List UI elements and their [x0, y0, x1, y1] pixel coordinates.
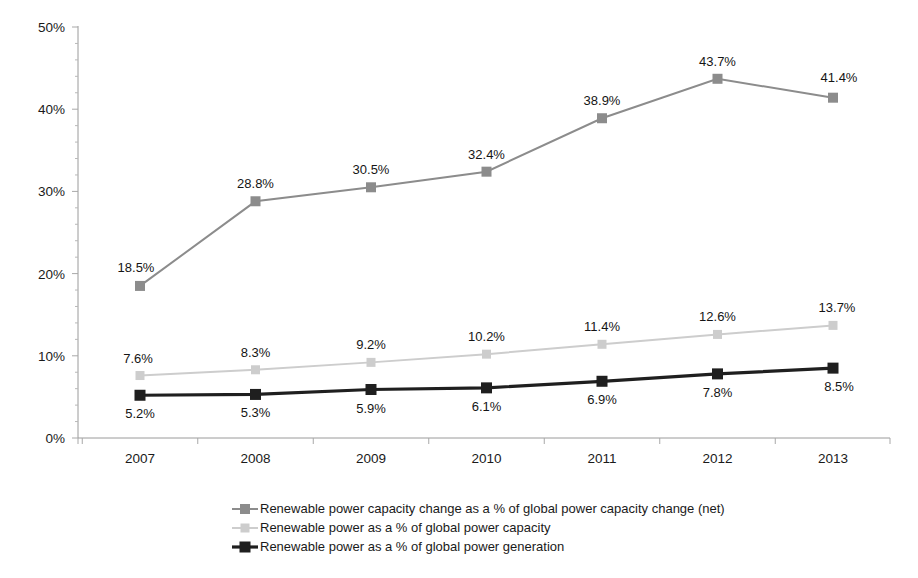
- data-label: 8.5%: [824, 379, 854, 394]
- data-label: 7.8%: [703, 385, 733, 400]
- data-point-marker: [829, 321, 838, 330]
- y-axis-tick-label: 50%: [38, 20, 65, 35]
- x-axis-tick-label: 2013: [818, 451, 848, 466]
- data-point-marker: [251, 365, 260, 374]
- data-point-marker: [597, 113, 607, 123]
- data-point-marker: [251, 196, 261, 206]
- data-label: 6.1%: [472, 399, 502, 414]
- legend-item-2[interactable]: Renewable power as a % of global power c…: [232, 520, 551, 535]
- data-point-marker: [598, 340, 607, 349]
- data-label: 5.2%: [125, 406, 155, 421]
- data-point-marker: [828, 363, 839, 374]
- data-point-marker: [828, 93, 838, 103]
- legend-label: Renewable power as a % of global power g…: [260, 539, 564, 554]
- data-point-marker: [482, 167, 492, 177]
- y-axis-tick-label: 10%: [38, 349, 65, 364]
- legend-item-3[interactable]: Renewable power as a % of global power g…: [232, 539, 564, 554]
- x-axis-tick-label: 2012: [702, 451, 732, 466]
- y-axis-tick-label: 40%: [38, 102, 65, 117]
- x-axis-tick-label: 2010: [471, 451, 501, 466]
- data-label: 10.2%: [468, 329, 505, 344]
- data-point-marker: [597, 376, 608, 387]
- data-label: 18.5%: [118, 260, 155, 275]
- legend-label: Renewable power capacity change as a % o…: [260, 501, 725, 516]
- data-label: 5.9%: [356, 401, 386, 416]
- data-label: 43.7%: [699, 54, 736, 69]
- data-label: 41.4%: [821, 70, 858, 85]
- data-label: 7.6%: [123, 351, 153, 366]
- x-axis-tick-label: 2009: [356, 451, 386, 466]
- data-point-marker: [366, 384, 377, 395]
- data-point-marker: [136, 371, 145, 380]
- data-point-marker: [135, 390, 146, 401]
- data-point-marker: [481, 382, 492, 393]
- data-label: 30.5%: [353, 162, 390, 177]
- y-axis-tick-label: 20%: [38, 267, 65, 282]
- data-point-marker: [135, 281, 145, 291]
- data-label: 13.7%: [819, 300, 856, 315]
- x-axis-tick-label: 2007: [125, 451, 155, 466]
- legend-marker-swatch: [240, 542, 251, 553]
- data-label: 9.2%: [356, 337, 386, 352]
- data-label: 11.4%: [584, 319, 620, 334]
- data-point-marker: [367, 358, 376, 367]
- data-point-marker: [712, 368, 723, 379]
- data-point-marker: [713, 74, 723, 84]
- data-point-marker: [482, 350, 491, 359]
- legend-item-1[interactable]: Renewable power capacity change as a % o…: [232, 501, 725, 516]
- data-label: 6.9%: [587, 392, 617, 407]
- legend-marker-swatch: [240, 504, 250, 514]
- legend-marker-swatch: [241, 524, 250, 533]
- data-label: 38.9%: [584, 93, 621, 108]
- data-label: 12.6%: [699, 309, 736, 324]
- y-axis-tick-label: 0%: [45, 431, 65, 446]
- x-axis-tick-label: 2011: [587, 451, 616, 466]
- data-label: 32.4%: [468, 147, 505, 162]
- line-chart: 0%10%20%30%40%50% 2007200820092010201120…: [0, 0, 918, 578]
- data-label: 28.8%: [237, 176, 274, 191]
- data-point-marker: [713, 330, 722, 339]
- legend-label: Renewable power as a % of global power c…: [260, 520, 551, 535]
- data-point-marker: [366, 182, 376, 192]
- data-point-marker: [250, 389, 261, 400]
- chart-canvas: 0%10%20%30%40%50% 2007200820092010201120…: [0, 0, 918, 578]
- data-label: 8.3%: [241, 345, 271, 360]
- x-axis-tick-label: 2008: [240, 451, 270, 466]
- data-label: 5.3%: [241, 405, 271, 420]
- y-axis-tick-label: 30%: [38, 184, 65, 199]
